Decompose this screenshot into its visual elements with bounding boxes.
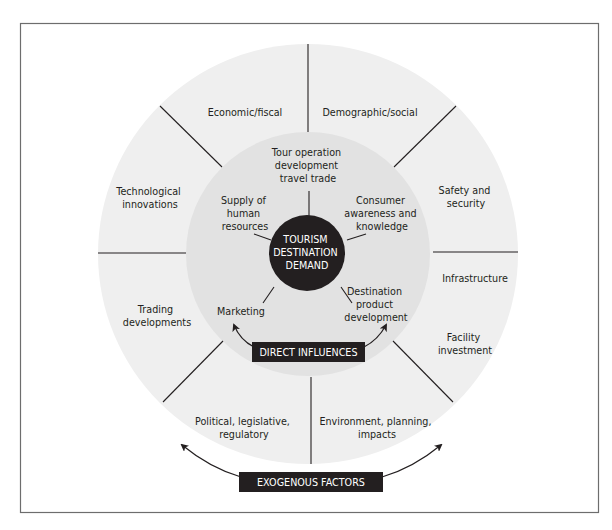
tourism-demand-diagram: TOURISM DESTINATION DEMAND Tour operatio… (0, 0, 612, 530)
exogenous-factors-label: EXOGENOUS FACTORS (257, 477, 365, 488)
exogenous-demographic-social: Demographic/social (322, 107, 417, 118)
direct-influence-tour-operation: Tour operation development travel trade (271, 147, 344, 184)
exogenous-infrastructure: Infrastructure (442, 273, 508, 284)
direct-influence-supply-human-resources: Supply of human resources (221, 195, 269, 232)
core-line: DESTINATION (273, 247, 338, 258)
exogenous-economic-fiscal: Economic/fiscal (208, 107, 283, 118)
direct-influences-label: DIRECT INFLUENCES (259, 347, 357, 358)
core-line: DEMAND (286, 260, 329, 271)
direct-influence-marketing: Marketing (217, 306, 265, 317)
core-line: TOURISM (282, 234, 327, 245)
